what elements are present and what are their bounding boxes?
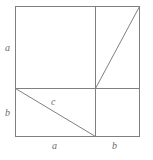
label-a-bottom-side: a	[52, 141, 57, 151]
diagonal-upper-right-line	[96, 7, 140, 89]
label-c-hypotenuse: c	[51, 97, 55, 107]
label-b-left-side: b	[5, 108, 10, 118]
geometry-figure: a b c a b	[0, 0, 153, 160]
figure-canvas	[0, 0, 153, 160]
outer-square-outline	[16, 7, 140, 137]
label-b-bottom-side: b	[112, 141, 117, 151]
label-a-left-side: a	[5, 43, 10, 53]
diagonal-hypotenuse-c-line	[16, 89, 96, 137]
